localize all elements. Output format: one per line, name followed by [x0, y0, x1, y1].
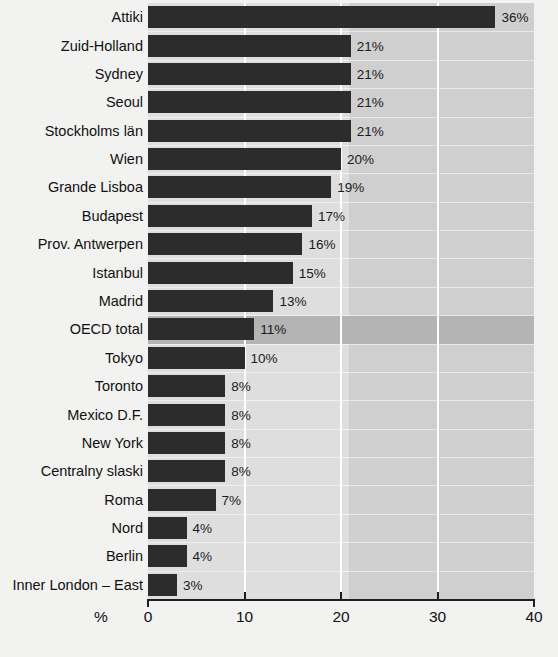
category-label: Grande Lisboa: [0, 180, 143, 195]
plot-area: [148, 3, 534, 599]
bar: [148, 262, 293, 284]
bar: [148, 375, 225, 397]
bar: [148, 120, 351, 142]
value-label: 17%: [318, 210, 345, 224]
bar: [148, 290, 273, 312]
x-axis-cap-40: [533, 599, 535, 607]
value-label: 3%: [183, 579, 203, 593]
value-label: 21%: [357, 68, 384, 82]
category-label: Istanbul: [0, 266, 143, 281]
bar: [148, 347, 245, 369]
x-tick-label: 10: [225, 609, 265, 625]
category-label: Roma: [0, 493, 143, 508]
category-label: Sydney: [0, 67, 143, 82]
x-tick-label: 0: [128, 609, 168, 625]
category-label: Budapest: [0, 209, 143, 224]
category-label: New York: [0, 436, 143, 451]
value-label: 16%: [308, 238, 335, 252]
category-label: Seoul: [0, 95, 143, 110]
bar: [148, 6, 495, 28]
bar: [148, 35, 351, 57]
x-tick-10: [244, 592, 246, 601]
value-label: 4%: [193, 550, 213, 564]
category-label: Mexico D.F.: [0, 408, 143, 423]
bar: [148, 489, 216, 511]
bar: [148, 233, 302, 255]
x-tick-label: 20: [321, 609, 361, 625]
category-axis-labels: AttikiZuid-HollandSydneySeoulStockholms …: [0, 3, 143, 599]
value-label: 21%: [357, 125, 384, 139]
category-label: Tokyo: [0, 351, 143, 366]
value-label: 8%: [231, 380, 251, 394]
bar: [148, 517, 187, 539]
bar: [148, 176, 331, 198]
x-tick-label: 40: [514, 609, 554, 625]
bar: [148, 432, 225, 454]
category-label: Inner London – East: [0, 578, 143, 593]
bar: [148, 460, 225, 482]
bar: [148, 545, 187, 567]
x-tick-label: 30: [418, 609, 458, 625]
category-label: Centralny slaski: [0, 464, 143, 479]
value-label: 21%: [357, 96, 384, 110]
bar: [148, 404, 225, 426]
category-label: Berlin: [0, 549, 143, 564]
value-label: 8%: [231, 437, 251, 451]
value-label: 19%: [337, 181, 364, 195]
bar: [148, 91, 351, 113]
value-label: 10%: [251, 352, 278, 366]
value-label: 20%: [347, 153, 374, 167]
x-tick-20: [340, 592, 342, 601]
bar: [148, 574, 177, 596]
value-label: 7%: [222, 494, 242, 508]
x-tick-30: [437, 592, 439, 601]
category-label: Madrid: [0, 294, 143, 309]
bar: [148, 63, 351, 85]
value-label: 4%: [193, 522, 213, 536]
category-label: OECD total: [0, 322, 143, 337]
gridline-30: [437, 3, 439, 599]
bar: [148, 318, 254, 340]
bar: [148, 148, 341, 170]
category-label: Prov. Antwerpen: [0, 237, 143, 252]
category-label: Attiki: [0, 10, 143, 25]
value-label: 11%: [260, 323, 286, 337]
value-label: 36%: [501, 11, 528, 25]
value-label: 8%: [231, 465, 251, 479]
value-label: 21%: [357, 40, 384, 54]
category-label: Stockholms län: [0, 124, 143, 139]
bar: [148, 205, 312, 227]
value-label: 8%: [231, 409, 251, 423]
x-axis-cap-0: [147, 599, 149, 607]
category-label: Zuid-Holland: [0, 39, 143, 54]
category-label: Nord: [0, 521, 143, 536]
category-label: Toronto: [0, 379, 143, 394]
category-label: Wien: [0, 152, 143, 167]
x-axis-unit-label: %: [94, 609, 108, 625]
bar-chart: AttikiZuid-HollandSydneySeoulStockholms …: [0, 0, 558, 657]
value-label: 13%: [279, 295, 306, 309]
value-label: 15%: [299, 267, 326, 281]
